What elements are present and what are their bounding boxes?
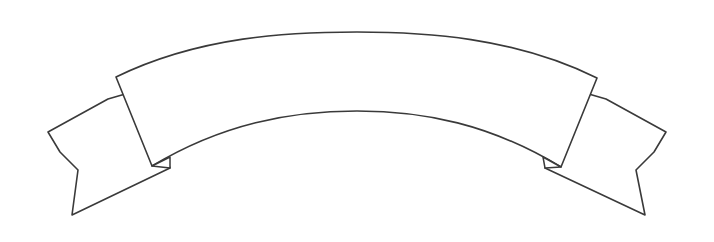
- main-banner-band: [116, 32, 597, 167]
- ribbon-banner-figure: Ribbon Banner Outline Hand-drawn line-ar…: [0, 0, 714, 242]
- main-banner-band-group: [116, 32, 597, 167]
- ribbon-banner-illustration: Ribbon Banner Outline Hand-drawn line-ar…: [0, 0, 714, 242]
